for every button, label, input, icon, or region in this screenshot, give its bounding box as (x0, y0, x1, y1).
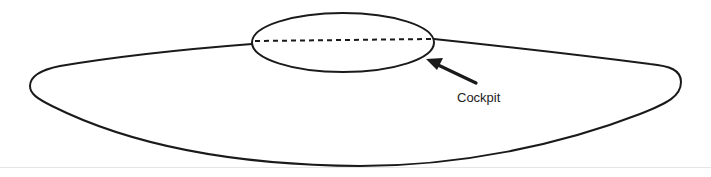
bottom-divider (0, 167, 711, 168)
saucer-diagram (0, 0, 711, 177)
cockpit-label: Cockpit (457, 91, 500, 104)
cockpit-ellipse (252, 13, 434, 72)
arrow-icon (426, 58, 476, 83)
